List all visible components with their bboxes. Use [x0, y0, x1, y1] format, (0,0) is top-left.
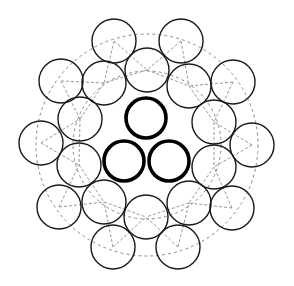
core-wire: [126, 98, 166, 138]
core-wire: [149, 141, 189, 181]
outer-wire-layer: [19, 19, 274, 269]
core-wire-group: [104, 98, 189, 181]
inner-wire-layer: [57, 48, 236, 239]
strand-cross-section-diagram: [0, 0, 294, 286]
construction-line: [61, 81, 80, 119]
construction-line: [79, 119, 80, 165]
pitch-circle: [73, 71, 221, 219]
construction-line: [59, 165, 79, 207]
core-wire: [104, 141, 144, 181]
